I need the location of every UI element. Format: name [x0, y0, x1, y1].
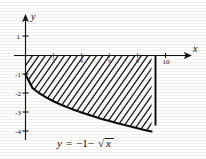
- x-tick-label-6: 6: [108, 58, 111, 64]
- y-tick-label-1: 1: [17, 33, 21, 41]
- figure-canvas: 1 -1 -2 -3 -4 2 4 6 8 10 x y y = −1− √ x: [0, 0, 206, 159]
- x-tick-label-8: 8: [136, 58, 139, 64]
- equation-radicand: x: [105, 137, 111, 149]
- equation-equals: =: [66, 137, 72, 149]
- equation-lhs: y: [56, 137, 62, 149]
- x-tick-label-4: 4: [80, 58, 83, 64]
- y-axis-label: y: [30, 11, 36, 22]
- x-tick-label-10: 10: [163, 58, 171, 66]
- x-axis-label: x: [192, 43, 198, 54]
- hatch-fill: [0, 0, 206, 150]
- plot-svg: 1 -1 -2 -3 -4 2 4 6 8 10 x y y = −1− √ x: [0, 0, 206, 159]
- y-tick-label-neg4: -4: [15, 128, 21, 136]
- y-tick-label-neg1: -1: [15, 71, 21, 79]
- equation-rhs-lead: −1−: [76, 137, 94, 149]
- equation-radical-sign: √: [98, 137, 105, 149]
- y-tick-label-neg3: -3: [15, 109, 21, 117]
- x-tick-label-2: 2: [52, 58, 55, 64]
- y-tick-label-neg2: -2: [15, 90, 21, 98]
- equation-annotation: y = −1− √ x: [56, 137, 114, 149]
